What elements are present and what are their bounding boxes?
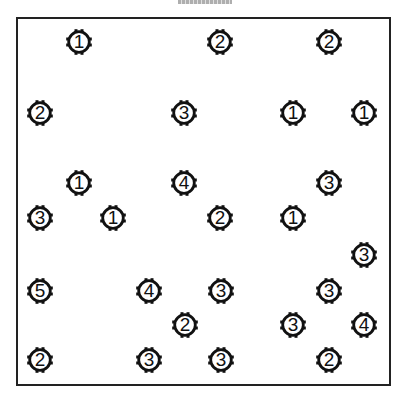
island-value: 1 xyxy=(278,203,308,233)
island-value: 2 xyxy=(25,98,55,128)
island-value: 1 xyxy=(64,168,94,198)
island-node-19[interactable]: 2 xyxy=(170,310,200,340)
island-value: 2 xyxy=(205,27,235,57)
island-value: 3 xyxy=(25,203,55,233)
island-value: 3 xyxy=(349,240,379,270)
island-node-14[interactable]: 3 xyxy=(349,240,379,270)
island-value: 3 xyxy=(314,276,344,306)
island-value: 3 xyxy=(134,345,164,375)
cropped-title-text xyxy=(178,0,232,4)
island-value: 2 xyxy=(314,27,344,57)
island-node-13[interactable]: 1 xyxy=(278,203,308,233)
island-value: 2 xyxy=(170,310,200,340)
island-node-10[interactable]: 3 xyxy=(25,203,55,233)
island-node-22[interactable]: 2 xyxy=(25,345,55,375)
island-value: 4 xyxy=(169,168,199,198)
island-node-4[interactable]: 3 xyxy=(169,98,199,128)
island-node-25[interactable]: 2 xyxy=(314,345,344,375)
island-node-20[interactable]: 3 xyxy=(278,310,308,340)
island-node-3[interactable]: 2 xyxy=(25,98,55,128)
island-node-16[interactable]: 4 xyxy=(134,276,164,306)
island-node-21[interactable]: 4 xyxy=(349,310,379,340)
island-value: 3 xyxy=(206,276,236,306)
island-value: 2 xyxy=(25,345,55,375)
island-node-11[interactable]: 1 xyxy=(98,203,128,233)
island-value: 1 xyxy=(349,98,379,128)
island-node-0[interactable]: 1 xyxy=(64,27,94,57)
island-node-18[interactable]: 3 xyxy=(314,276,344,306)
island-value: 3 xyxy=(169,98,199,128)
island-node-8[interactable]: 4 xyxy=(169,168,199,198)
island-value: 4 xyxy=(134,276,164,306)
island-value: 4 xyxy=(349,310,379,340)
island-value: 3 xyxy=(278,310,308,340)
island-node-1[interactable]: 2 xyxy=(205,27,235,57)
island-value: 1 xyxy=(98,203,128,233)
island-node-12[interactable]: 2 xyxy=(205,203,235,233)
island-node-24[interactable]: 3 xyxy=(206,345,236,375)
island-node-5[interactable]: 1 xyxy=(278,98,308,128)
island-value: 5 xyxy=(25,276,55,306)
island-node-17[interactable]: 3 xyxy=(206,276,236,306)
island-node-2[interactable]: 2 xyxy=(314,27,344,57)
island-value: 2 xyxy=(205,203,235,233)
island-node-6[interactable]: 1 xyxy=(349,98,379,128)
island-value: 1 xyxy=(64,27,94,57)
island-node-7[interactable]: 1 xyxy=(64,168,94,198)
island-node-23[interactable]: 3 xyxy=(134,345,164,375)
island-node-15[interactable]: 5 xyxy=(25,276,55,306)
island-value: 1 xyxy=(278,98,308,128)
island-value: 2 xyxy=(314,345,344,375)
island-node-9[interactable]: 3 xyxy=(314,168,344,198)
puzzle-board xyxy=(16,17,391,386)
island-value: 3 xyxy=(314,168,344,198)
island-value: 3 xyxy=(206,345,236,375)
